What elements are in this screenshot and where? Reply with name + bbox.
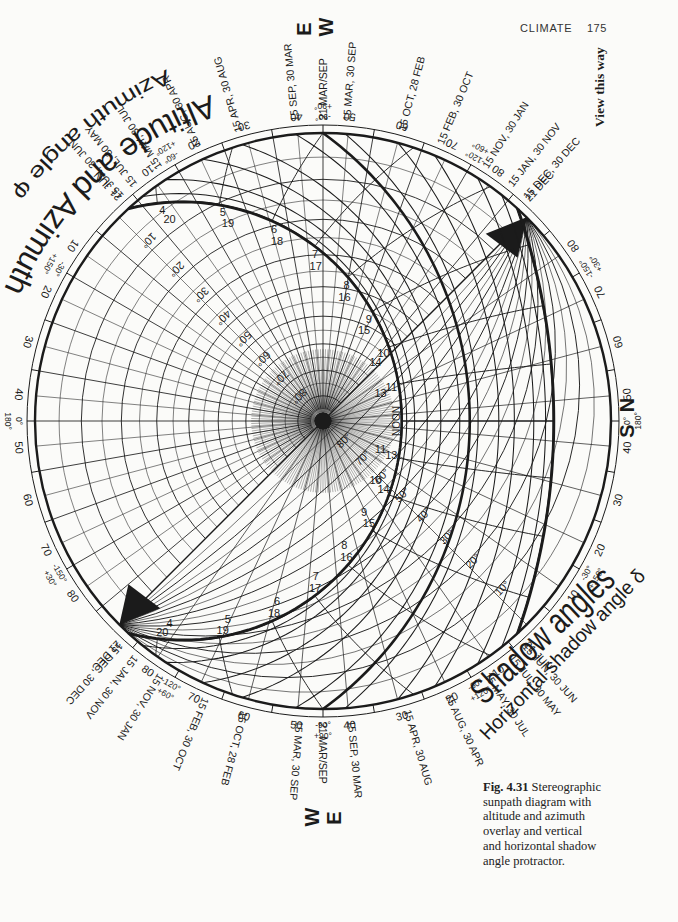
hour-line — [219, 148, 232, 206]
altitude-label: 10° — [139, 231, 159, 251]
altitude-label: 60° — [253, 349, 273, 369]
running-head: CLIMATE — [520, 22, 572, 34]
scale-tick — [96, 606, 102, 611]
scale-tick — [422, 692, 425, 700]
horizontal-shadow-angle-line — [298, 421, 323, 708]
date-label-bottom: 15 SEP, 30 MAR — [346, 720, 365, 799]
altitude-label: 30° — [191, 285, 211, 305]
horizontal-shadow-angle-line — [323, 421, 488, 657]
ring-scale-label: 40 — [620, 441, 633, 454]
hour-label: 7 — [312, 248, 318, 260]
hour-line — [315, 596, 414, 695]
azimuth-angle-inner: 0° — [14, 417, 24, 425]
compass-right-north: N — [617, 398, 637, 412]
scale-tick — [373, 705, 374, 713]
hour-label: 8 — [343, 279, 349, 291]
scale-tick — [272, 705, 273, 713]
scale-tick — [67, 565, 74, 569]
hour-label: 15 — [363, 517, 375, 529]
hour-label-mirror: 4 — [166, 617, 172, 629]
ring-scale-label: 70 — [39, 542, 55, 558]
date-label-bottom: 15 APR, 30 AUG — [402, 708, 435, 786]
date-label-top: 15 SEP, 30 MAR — [281, 43, 300, 122]
hour-label-mirror: 9 — [361, 506, 367, 518]
hour-label: 17 — [309, 582, 321, 594]
hour-label: 11 — [386, 381, 397, 393]
scale-tick — [222, 143, 225, 151]
horizontal-shadow-angle-line — [323, 346, 601, 421]
horizontal-shadow-angle-line — [323, 421, 610, 446]
ring-scale-label: 30 — [21, 335, 36, 350]
caption-line: angle protractor. — [483, 854, 601, 869]
scale-tick — [594, 520, 602, 523]
vertical-shadow-angle-label: 40° — [414, 505, 434, 525]
hour-label-mirror: 14 — [369, 356, 381, 368]
scale-tick — [133, 194, 138, 200]
ring-scale-label: 10 — [65, 238, 82, 255]
scale-tick — [467, 165, 471, 172]
scale-tick — [32, 370, 40, 371]
caption-line: overlay and vertical — [483, 824, 601, 839]
ring-scale-label: 70 — [591, 284, 607, 300]
compass-bottom-east: E — [324, 811, 344, 824]
scale-tick — [508, 194, 513, 200]
hour-label-mirror: 7 — [313, 570, 319, 582]
hour-label: 6 — [271, 223, 277, 235]
scale-tick — [594, 320, 602, 323]
hour-label-mirror: 19 — [222, 217, 234, 229]
caption-line: sunpath diagram with — [483, 795, 601, 810]
date-label-bottom: 21 MAR/SEP — [317, 722, 329, 784]
ring-scale-label: 80 — [564, 238, 581, 255]
horizontal-shadow-angle-line — [201, 421, 323, 682]
hour-label-mirror: 13 — [374, 387, 386, 399]
page-number: 175 — [587, 22, 607, 34]
scale-tick — [422, 143, 425, 151]
altitude-label: 20° — [167, 259, 187, 279]
zenith-dot — [314, 412, 332, 430]
view-orientation-hint: View this way — [592, 47, 608, 127]
azimuth-line — [87, 256, 313, 414]
scale-tick — [45, 320, 53, 323]
ring-scale-label: 60 — [21, 492, 36, 507]
compass-bottom-west: W — [302, 808, 322, 827]
scale-tick — [572, 273, 579, 277]
hour-label: 13 — [385, 449, 397, 461]
noon-label: NOON — [391, 406, 402, 436]
date-label-top: 15 OCT, 28 FEB — [396, 55, 427, 132]
date-label-top: 15 FEB, 30 OCT — [434, 69, 475, 146]
scale-tick — [67, 273, 74, 277]
compass-right-south: S — [617, 424, 637, 437]
hour-label-mirror: 5 — [225, 613, 231, 625]
scale-tick — [572, 565, 579, 569]
scale-tick — [544, 231, 550, 236]
scale-tick — [45, 520, 53, 523]
hour-label-mirror: 8 — [341, 539, 347, 551]
hour-line — [219, 637, 232, 695]
scale-tick — [222, 692, 225, 700]
ring-scale-label: 80 — [65, 587, 82, 604]
scale-tick — [607, 370, 615, 371]
horizontal-shadow-angle-line — [248, 421, 323, 699]
hour-label: 16 — [340, 551, 352, 563]
figure-label: Fig. 4.31 — [483, 780, 528, 794]
ring-scale-label: 50 — [13, 441, 26, 454]
ring-scale-label: 30 — [610, 492, 625, 507]
hour-label: 18 — [268, 607, 280, 619]
date-label-top: 15 MAR, 30 SEP — [340, 41, 358, 121]
date-label-top: 21 MAR/SEP — [317, 58, 329, 120]
hour-label-mirror: 11 — [375, 443, 386, 455]
scale-tick — [32, 471, 40, 472]
hour-label-mirror: 18 — [271, 235, 283, 247]
vertical-shadow-angle-label: 10° — [492, 578, 512, 598]
hour-line — [315, 148, 414, 247]
date-label-bottom: 15 OCT, 28 FEB — [219, 710, 250, 787]
zenith-ray — [260, 425, 315, 454]
caption-line: Fig. 4.31 Stereographic — [483, 780, 601, 795]
hour-label-mirror: 20 — [163, 213, 175, 225]
altitude-label: 50° — [234, 329, 254, 349]
date-label-bottom: 15 FEB, 30 OCT — [170, 696, 211, 773]
vertical-shadow-angle-label: 70° — [352, 448, 372, 468]
zenith-ray — [327, 358, 356, 413]
compass-top-east: E — [294, 22, 314, 35]
ring-scale-label: 20 — [39, 284, 55, 300]
